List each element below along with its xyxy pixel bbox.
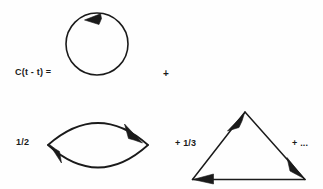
- three-loop-triangle: [193, 112, 306, 184]
- triangle-right-arrowhead: [287, 158, 304, 179]
- lens-lower-arc: [48, 145, 148, 168]
- lens-lower-arrowhead: [50, 145, 62, 164]
- two-loop-lens: [48, 123, 148, 168]
- triangle-left-arrowhead: [228, 113, 245, 131]
- plus-operator-1: +: [163, 69, 169, 79]
- lhs-equation-label: C(t - t) =: [15, 68, 51, 77]
- one-loop-circle: [66, 13, 128, 75]
- coefficient-one-third-label: + 1/3: [175, 139, 196, 148]
- coefficient-one-half-label: 1/2: [16, 138, 29, 147]
- ellipsis-label: + ...: [292, 139, 308, 148]
- diagram-figure: C(t - t) = + 1/2 + 1/3 + ...: [0, 0, 323, 189]
- lens-upper-arrowhead: [125, 124, 143, 143]
- diagram-canvas: [0, 0, 323, 189]
